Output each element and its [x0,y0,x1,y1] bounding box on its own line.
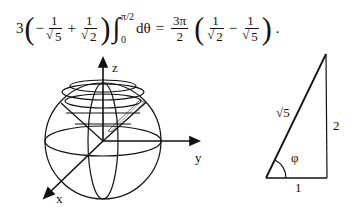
sphere-cone-figure [0,0,358,207]
z-arrow-icon [99,58,107,67]
z-axis-label: z [112,60,118,76]
base-label: 1 [295,180,302,196]
y-arrow-icon [190,137,199,145]
vertical-side-label: 2 [333,118,340,134]
x-axis [50,141,103,192]
angle-phi-label: φ [291,150,299,166]
vertical-side [326,54,327,178]
axes [44,58,199,198]
hypotenuse-label: √5 [276,105,290,121]
y-axis-label: y [195,150,202,166]
angle-arc [275,160,286,178]
x-axis-label: x [56,191,63,207]
